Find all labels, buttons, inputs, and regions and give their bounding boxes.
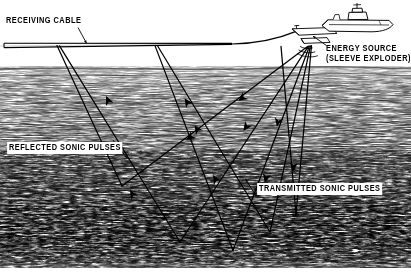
leader-line-icon	[78, 28, 87, 44]
label-energy-source-line1: ENERGY SOURCE	[326, 44, 411, 54]
label-transmitted-sonic-pulses: TRANSMITTED SONIC PULSES	[258, 184, 381, 194]
label-receiving-cable: RECEIVING CABLE	[6, 16, 81, 26]
seismic-survey-figure: RECEIVING CABLE ENERGY SOURCE (SLEEVE EX…	[0, 0, 411, 279]
label-reflected-sonic-pulses: REFLECTED SONIC PULSES	[8, 143, 122, 153]
receiving-cable	[4, 31, 296, 47]
label-energy-source-line2: (SLEEVE EXPLODER)	[326, 54, 411, 64]
figure-canvas	[0, 0, 411, 279]
survey-ship-icon	[322, 3, 393, 32]
label-energy-source: ENERGY SOURCE (SLEEVE EXPLODER)	[326, 44, 411, 63]
deep-reflector-band	[0, 205, 411, 263]
